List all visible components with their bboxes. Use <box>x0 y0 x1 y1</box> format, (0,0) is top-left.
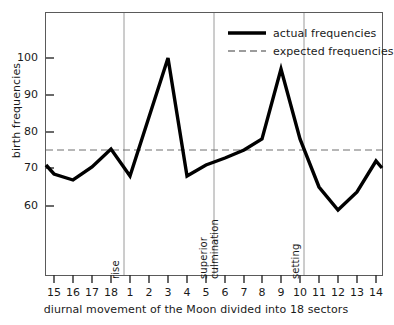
x-axis-title: diurnal movement of the Moon divided int… <box>0 303 392 316</box>
x-tick-label-13: 13 <box>347 286 367 299</box>
x-tick-label-2: 2 <box>139 286 159 299</box>
annotation-label-culmination: culmination <box>209 219 220 279</box>
x-tick-label-7: 7 <box>234 286 254 299</box>
x-tick-label-10: 10 <box>290 286 310 299</box>
x-tick-label-8: 8 <box>252 286 272 299</box>
x-tick-label-12: 12 <box>328 286 348 299</box>
annotation-label-superior: superior <box>198 237 209 279</box>
x-tick-label-14: 14 <box>366 286 386 299</box>
annotation-label-rise: rise <box>110 260 121 279</box>
x-tick-label-1: 1 <box>120 286 140 299</box>
x-tick-label-4: 4 <box>177 286 197 299</box>
x-tick-label-11: 11 <box>309 286 329 299</box>
x-tick-label-17: 17 <box>82 286 102 299</box>
x-tick-label-5: 5 <box>196 286 216 299</box>
x-tick-label-6: 6 <box>215 286 235 299</box>
x-tick-label-15: 15 <box>44 286 64 299</box>
legend-label-actual: actual frequencies <box>273 27 376 40</box>
x-tick-label-18: 18 <box>101 286 121 299</box>
annotation-label-setting: setting <box>290 244 301 279</box>
x-tick-label-16: 16 <box>63 286 83 299</box>
legend-label-expected: expected frequencies <box>273 45 394 58</box>
y-axis-ticks <box>46 58 54 206</box>
x-tick-label-9: 9 <box>271 286 291 299</box>
x-tick-label-3: 3 <box>158 286 178 299</box>
